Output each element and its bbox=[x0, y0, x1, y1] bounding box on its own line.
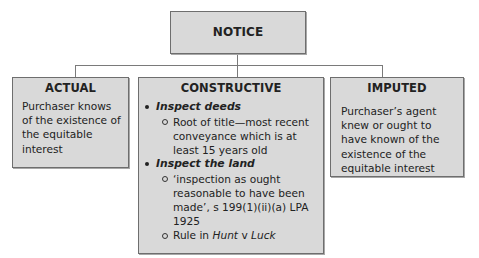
constructive-list: Inspect deeds Root of title—most recent … bbox=[145, 100, 317, 243]
sub-item-root-of-title: Root of title—most recent conveyance whi… bbox=[162, 115, 317, 158]
rule-prefix: Rule in bbox=[173, 229, 212, 241]
bullet-icon bbox=[145, 162, 149, 166]
hollow-bullet-icon bbox=[162, 233, 168, 239]
sub-list: ‘inspection as ought reasonable to have … bbox=[156, 172, 317, 243]
case-connector: v bbox=[238, 229, 251, 241]
constructive-notice-box: CONSTRUCTIVE Inspect deeds Root of title… bbox=[138, 77, 324, 254]
sub-item-text: Root of title—most recent conveyance whi… bbox=[173, 116, 309, 156]
connector-horizontal-bar bbox=[75, 65, 383, 66]
constructive-title: CONSTRUCTIVE bbox=[145, 81, 317, 95]
actual-description: Purchaser knows of the existence of the … bbox=[19, 99, 122, 156]
sub-item-text: ‘inspection as ought reasonable to have … bbox=[173, 173, 308, 228]
list-item-inspect-deeds: Inspect deeds Root of title—most recent … bbox=[145, 100, 317, 157]
bullet-icon bbox=[145, 105, 149, 109]
imputed-title: IMPUTED bbox=[339, 81, 455, 95]
connector-actual bbox=[75, 65, 76, 77]
hollow-bullet-icon bbox=[162, 119, 168, 125]
actual-notice-box: ACTUAL Purchaser knows of the existence … bbox=[12, 77, 129, 168]
list-item-inspect-land: Inspect the land ‘inspection as ought re… bbox=[145, 157, 317, 243]
notice-title: NOTICE bbox=[171, 12, 305, 52]
connector-imputed bbox=[382, 65, 383, 77]
sub-item-inspection-statute: ‘inspection as ought reasonable to have … bbox=[162, 172, 317, 229]
imputed-description: Purchaser’s agent knew or ought to have … bbox=[339, 104, 455, 175]
actual-title: ACTUAL bbox=[19, 81, 122, 95]
connector-constructive bbox=[237, 65, 238, 77]
hollow-bullet-icon bbox=[162, 176, 168, 182]
sub-item-hunt-v-luck: Rule in Hunt v Luck bbox=[162, 228, 317, 242]
case-party-b: Luck bbox=[251, 229, 276, 241]
case-party-a: Hunt bbox=[212, 229, 238, 241]
imputed-notice-box: IMPUTED Purchaser’s agent knew or ought … bbox=[330, 77, 464, 177]
sub-list: Root of title—most recent conveyance whi… bbox=[156, 115, 317, 158]
item-heading: Inspect deeds bbox=[156, 100, 317, 115]
item-heading: Inspect the land bbox=[156, 157, 317, 172]
notice-root-box: NOTICE bbox=[170, 11, 306, 54]
